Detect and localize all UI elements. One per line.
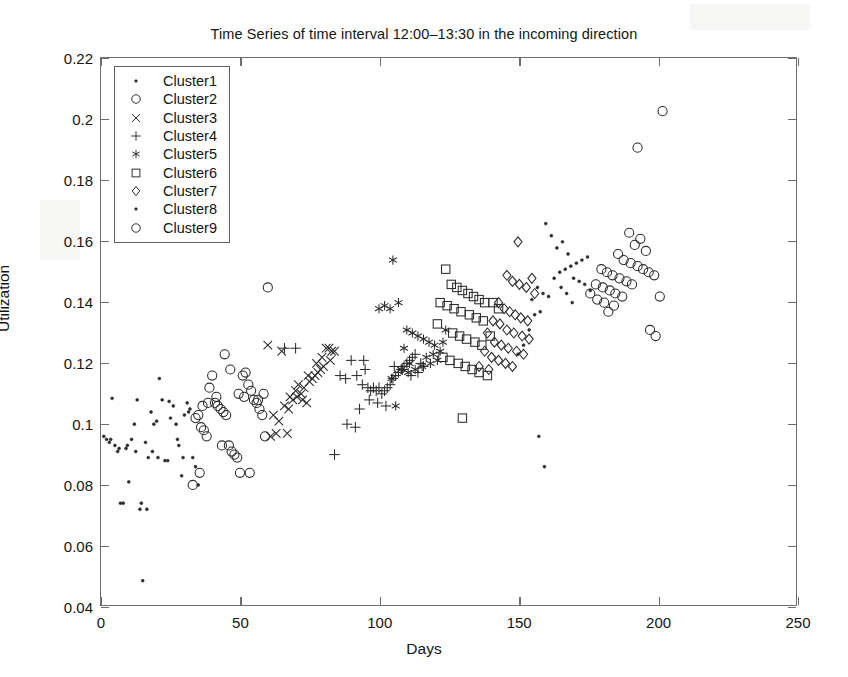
legend-item-cluster9[interactable]: Cluster9 (121, 218, 217, 236)
x-tick-mark (101, 58, 102, 66)
asterisk-marker-icon (121, 145, 151, 163)
series-cluster3 (264, 341, 339, 441)
y-tick-mark (788, 180, 796, 181)
x-tick-mark (380, 58, 381, 66)
legend-item-cluster1[interactable]: Cluster1 (121, 72, 217, 90)
y-tick-mark (101, 546, 109, 547)
circle-marker-icon (121, 219, 151, 237)
y-tick-mark (101, 607, 109, 608)
y-tick-label: 0.04 (7, 599, 93, 616)
y-tick-mark (101, 363, 109, 364)
point-marker-icon (121, 72, 151, 90)
y-tick-label: 0.16 (7, 233, 93, 250)
legend-item-label: Cluster3 (151, 110, 217, 126)
x-tick-mark (798, 597, 799, 605)
x-tick-mark (519, 597, 520, 605)
legend-item-cluster6[interactable]: Cluster6 (121, 163, 217, 181)
legend-item-cluster4[interactable]: Cluster4 (121, 127, 217, 145)
x-tick-mark (380, 597, 381, 605)
legend-item-label: Cluster8 (151, 201, 217, 217)
x-tick-mark (798, 58, 799, 66)
y-tick-mark (788, 58, 796, 59)
y-tick-label: 0.2 (7, 111, 93, 128)
x-tick-mark (659, 58, 660, 66)
y-tick-mark (788, 363, 796, 364)
series-cluster7 (475, 237, 539, 375)
y-tick-mark (101, 302, 109, 303)
legend-item-cluster2[interactable]: Cluster2 (121, 90, 217, 108)
y-tick-label: 0.14 (7, 294, 93, 311)
y-tick-mark (788, 485, 796, 486)
y-tick-label: 0.12 (7, 355, 93, 372)
y-tick-label: 0.18 (7, 172, 93, 189)
x-tick-mark (659, 597, 660, 605)
legend-item-label: Cluster9 (151, 220, 217, 236)
x-tick-label: 150 (484, 614, 554, 631)
y-tick-label: 0.22 (7, 50, 93, 67)
y-tick-mark (101, 485, 109, 486)
x-axis-label: Days (0, 640, 848, 658)
series-cluster2 (188, 283, 272, 490)
y-tick-mark (788, 302, 796, 303)
y-tick-mark (788, 607, 796, 608)
series-cluster9 (586, 107, 667, 341)
x-tick-mark (519, 58, 520, 66)
y-tick-label: 0.06 (7, 538, 93, 555)
chart-title: Time Series of time interval 12:00–13:30… (0, 26, 848, 42)
y-tick-mark (788, 119, 796, 120)
legend-item-label: Cluster1 (151, 73, 217, 89)
legend-item-label: Cluster5 (151, 146, 217, 162)
x-tick-mark (101, 597, 102, 605)
legend-item-label: Cluster6 (151, 165, 217, 181)
x-tick-label: 100 (345, 614, 415, 631)
legend-item-label: Cluster2 (151, 91, 217, 107)
point-marker-icon (121, 200, 151, 218)
y-tick-label: 0.1 (7, 416, 93, 433)
x-tick-label: 0 (66, 614, 136, 631)
y-tick-mark (101, 180, 109, 181)
plot-area: 0.040.060.080.10.120.140.160.180.20.22 0… (100, 57, 797, 606)
y-axis-label: Utilization (0, 265, 13, 332)
chart-legend: Cluster1Cluster2Cluster3Cluster4Cluster5… (114, 66, 230, 243)
y-tick-mark (101, 424, 109, 425)
legend-item-cluster8[interactable]: Cluster8 (121, 200, 217, 218)
x-tick-label: 250 (763, 614, 833, 631)
legend-item-cluster7[interactable]: Cluster7 (121, 182, 217, 200)
y-tick-mark (788, 424, 796, 425)
x-tick-label: 50 (205, 614, 275, 631)
legend-item-cluster3[interactable]: Cluster3 (121, 109, 217, 127)
legend-item-label: Cluster7 (151, 183, 217, 199)
scan-artifact (40, 200, 80, 260)
legend-item-label: Cluster4 (151, 128, 217, 144)
y-tick-mark (788, 241, 796, 242)
y-tick-mark (788, 546, 796, 547)
series-cluster8 (517, 222, 592, 468)
diamond-marker-icon (121, 182, 151, 200)
x-tick-label: 200 (624, 614, 694, 631)
x-marker-icon (121, 109, 151, 127)
y-tick-mark (101, 119, 109, 120)
plus-marker-icon (121, 127, 151, 145)
y-tick-mark (101, 241, 109, 242)
x-tick-mark (240, 58, 241, 66)
circle-marker-icon (121, 90, 151, 108)
series-cluster1 (102, 377, 199, 582)
figure-canvas: Time Series of time interval 12:00–13:30… (0, 0, 848, 677)
square-marker-icon (121, 164, 151, 182)
legend-item-cluster5[interactable]: Cluster5 (121, 145, 217, 163)
series-cluster6 (433, 265, 503, 422)
x-tick-mark (240, 597, 241, 605)
y-tick-label: 0.08 (7, 477, 93, 494)
